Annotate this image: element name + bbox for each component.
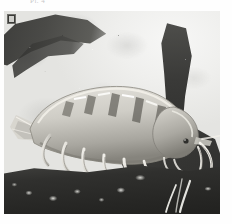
artist-seal-inner <box>9 16 14 22</box>
artwork-canvas: Pl. 4 <box>0 0 232 224</box>
antennae-over-rock <box>4 11 220 214</box>
plate-caption: Pl. 4 <box>30 0 90 6</box>
artist-seal <box>7 14 16 24</box>
painting-plate <box>4 11 220 214</box>
